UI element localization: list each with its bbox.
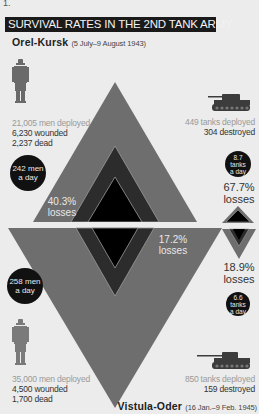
loss-pct: 40.3%	[44, 196, 80, 207]
soldier-icon	[12, 319, 29, 365]
men-dead: 2,237 dead	[12, 138, 90, 148]
men-dead: 1,700 dead	[12, 394, 90, 404]
tank-icon	[208, 94, 250, 111]
tanks-deployed: 850 tanks deployed	[185, 374, 255, 384]
rate-line-2: a day	[18, 173, 38, 182]
infographic: 1. SURVIVAL RATES IN THE 2ND TANK ARMY O…	[0, 0, 259, 414]
men-deployed: 35,000 men deployed	[12, 374, 90, 384]
vistula-oder-heading: Vistula-Oder (16 Jan.–9 Feb. 1945)	[118, 400, 257, 412]
men-deployed: 21,005 men deployed	[12, 118, 90, 128]
operation-name: Vistula-Oder	[118, 400, 183, 412]
tank-icon	[197, 352, 250, 369]
tanks-deployed: 449 tanks deployed	[185, 117, 255, 127]
vistula-oder-tank-loss-pct: 18.9% losses	[220, 261, 258, 285]
loss-word: losses	[220, 273, 258, 285]
vistula-oder-tank-stats: 850 tanks deployed 159 destroyed	[185, 374, 255, 394]
tanks-destroyed: 159 destroyed	[185, 384, 255, 394]
figure-number: 1.	[3, 0, 11, 8]
vistula-oder-men-per-day-badge: 258 men a day	[7, 268, 43, 304]
loss-word: losses	[44, 207, 80, 218]
loss-pct: 17.2%	[153, 234, 193, 245]
orel-kursk-heading: Orel-Kursk (5 July–9 August 1943)	[12, 36, 146, 48]
orel-kursk-tanks-per-day-badge: 8.7 tanks a day	[225, 151, 251, 177]
rate-line-2: a day	[15, 286, 35, 295]
men-wounded: 6,230 wounded	[12, 128, 90, 138]
rate-line-1: 8.7 tanks	[225, 154, 251, 168]
rate-line-1: 6.6 tanks	[226, 294, 250, 308]
operation-name: Orel-Kursk	[12, 36, 68, 48]
loss-pct: 18.9%	[220, 261, 258, 273]
rate-line-1: 258 men	[9, 277, 40, 286]
operation-dates: (5 July–9 August 1943)	[71, 39, 146, 48]
loss-triangles-graphic	[0, 0, 259, 414]
rate-line-2: a day	[230, 168, 246, 175]
rate-line-2: a day	[230, 308, 246, 315]
men-wounded: 4,500 wounded	[12, 384, 90, 394]
orel-kursk-tank-stats: 449 tanks deployed 304 destroyed	[185, 117, 255, 137]
vistula-oder-men-stats: 35,000 men deployed 4,500 wounded 1,700 …	[12, 374, 90, 404]
vistula-oder-men-loss-pct: 17.2% losses	[153, 234, 193, 256]
vistula-oder-tanks-per-day-badge: 6.6 tanks a day	[226, 292, 250, 316]
tanks-destroyed: 304 destroyed	[185, 127, 255, 137]
operation-dates: (16 Jan.–9 Feb. 1945)	[185, 403, 257, 412]
orel-kursk-men-per-day-badge: 242 men a day	[10, 155, 46, 191]
rate-line-1: 242 men	[12, 164, 43, 173]
loss-word: losses	[220, 193, 258, 205]
orel-kursk-men-stats: 21,005 men deployed 6,230 wounded 2,237 …	[12, 118, 90, 148]
orel-kursk-tank-loss-pct: 67.7% losses	[220, 181, 258, 205]
orel-kursk-men-loss-pct: 40.3% losses	[44, 196, 80, 218]
soldier-icon	[12, 59, 29, 103]
loss-pct: 67.7%	[220, 181, 258, 193]
loss-word: losses	[153, 245, 193, 256]
chart-title: SURVIVAL RATES IN THE 2ND TANK ARMY	[5, 17, 216, 32]
